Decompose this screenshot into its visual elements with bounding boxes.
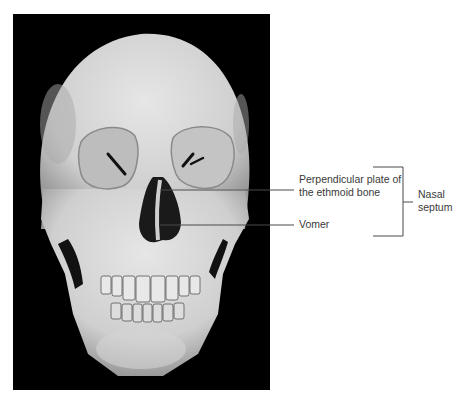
anatomy-figure: Perpendicular plate of the ethmoid bone … (0, 0, 462, 398)
label-ethmoid-line2: the ethmoid bone (299, 186, 401, 199)
label-nasal-septum: Nasal septum (418, 188, 452, 214)
label-septum-line2: septum (418, 201, 452, 214)
label-septum-line1: Nasal (418, 188, 452, 201)
label-vomer: Vomer (299, 218, 329, 231)
label-ethmoid-line1: Perpendicular plate of (299, 173, 401, 186)
leader-lines (0, 0, 462, 398)
label-perpendicular-plate-ethmoid: Perpendicular plate of the ethmoid bone (299, 173, 401, 199)
